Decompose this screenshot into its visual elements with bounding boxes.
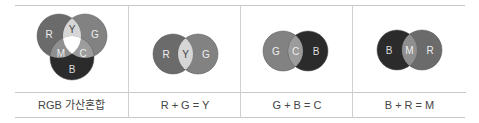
panel-rgb-additive: R G Y M C B RGB 가산혼합 bbox=[15, 6, 128, 117]
label-r: R bbox=[45, 29, 52, 40]
label-mid: M bbox=[405, 45, 413, 56]
label-left: R bbox=[162, 49, 169, 60]
caption-r-plus-g: R + G = Y bbox=[129, 92, 241, 118]
rgb-venn-diagram: R G Y M C B bbox=[15, 6, 128, 92]
label-right: R bbox=[426, 45, 433, 56]
label-left: G bbox=[272, 46, 280, 57]
panel-g-plus-b: G C B G + B = C bbox=[240, 6, 353, 117]
br-venn-diagram: B M R bbox=[353, 6, 466, 92]
label-c: C bbox=[79, 48, 86, 59]
caption-g-plus-b: G + B = C bbox=[241, 92, 353, 118]
label-right: B bbox=[313, 46, 320, 57]
label-right: G bbox=[202, 49, 210, 60]
label-y: Y bbox=[69, 24, 76, 35]
gb-venn-diagram: G C B bbox=[241, 6, 353, 92]
label-mid: C bbox=[292, 46, 299, 57]
color-mixing-table: R G Y M C B RGB 가산혼합 R Y G R + G = Y bbox=[15, 5, 465, 118]
caption-rgb-additive: RGB 가산혼합 bbox=[15, 92, 128, 118]
label-g: G bbox=[91, 29, 99, 40]
rg-venn-diagram: R Y G bbox=[129, 6, 241, 92]
caption-b-plus-r: B + R = M bbox=[353, 92, 466, 118]
label-m: M bbox=[57, 48, 65, 59]
label-mid: Y bbox=[182, 49, 189, 60]
panel-r-plus-g: R Y G R + G = Y bbox=[128, 6, 241, 117]
label-b: B bbox=[69, 64, 76, 75]
label-left: B bbox=[386, 45, 393, 56]
panel-b-plus-r: B M R B + R = M bbox=[352, 6, 466, 117]
